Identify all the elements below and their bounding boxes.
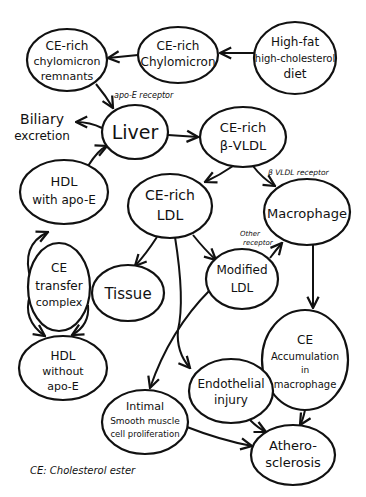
- svg-text:CE-rich: CE-rich: [157, 39, 200, 53]
- edge-label-apoe-receptor: apo-E receptor: [114, 91, 174, 100]
- node-modified-ldl: Modified LDL: [206, 249, 278, 309]
- svg-text:Accumulation: Accumulation: [271, 351, 339, 362]
- svg-text:CE-rich: CE-rich: [46, 39, 89, 53]
- svg-text:excretion: excretion: [14, 129, 70, 143]
- node-ce-transfer-complex: CE transfer complex: [28, 243, 90, 331]
- edge-ldl-to-endothelial: [175, 237, 190, 368]
- svg-text:HDL: HDL: [51, 349, 76, 363]
- svg-text:with apo-E: with apo-E: [32, 193, 96, 207]
- edge-label-vldl-receptor: β VLDL receptor: [268, 168, 330, 177]
- svg-text:high-cholesterol: high-cholesterol: [255, 53, 335, 64]
- node-atherosclerosis: Athero- sclerosis: [251, 425, 335, 485]
- node-endothelial-injury: Endothelial injury: [189, 359, 273, 423]
- svg-text:Chylomicron: Chylomicron: [141, 55, 216, 69]
- svg-text:cell proliferation: cell proliferation: [110, 429, 179, 439]
- svg-text:chylomicron: chylomicron: [33, 55, 100, 68]
- node-intimal-proliferation: Intimal Smooth muscle cell proliferation: [102, 390, 188, 454]
- svg-text:complex: complex: [36, 296, 83, 309]
- svg-text:Smooth muscle: Smooth muscle: [110, 416, 180, 426]
- svg-text:CE: CE: [297, 333, 313, 347]
- edge-liver-to-biliary: [76, 122, 102, 128]
- edge-label-other-receptor-2: receptor: [243, 239, 274, 247]
- node-beta-vldl: CE-rich β-VLDL: [200, 107, 286, 167]
- svg-text:without: without: [42, 365, 84, 378]
- svg-text:Biliary: Biliary: [20, 111, 64, 127]
- node-macrophage: Macrophage: [264, 179, 350, 245]
- edge-liver-to-vldl: [168, 135, 198, 137]
- edge-label-other-receptor-1: Other: [240, 230, 261, 238]
- svg-text:Endothelial: Endothelial: [197, 377, 264, 391]
- node-chylomicron: CE-rich Chylomicron: [138, 27, 218, 83]
- node-ce-accumulation: CE Accumulation in macrophage: [262, 310, 348, 410]
- edge-endothelial-to-athero: [250, 420, 266, 432]
- svg-text:injury: injury: [214, 393, 248, 407]
- svg-text:remnants: remnants: [41, 70, 94, 83]
- edge-ldl-to-modified: [193, 235, 216, 260]
- node-liver: Liver: [102, 105, 168, 159]
- lipid-metabolism-diagram: apo-E receptor β VLDL receptor Other rec…: [0, 0, 366, 497]
- svg-text:transfer: transfer: [35, 279, 82, 293]
- edge-vldl-to-ldl: [205, 166, 233, 182]
- node-biliary-excretion: Biliary excretion: [14, 111, 70, 143]
- svg-text:Tissue: Tissue: [103, 285, 151, 303]
- svg-text:LDL: LDL: [157, 207, 184, 223]
- edge-chylomicron-to-remnants: [108, 55, 138, 58]
- svg-text:Modified: Modified: [216, 263, 267, 277]
- node-chylomicron-remnants: CE-rich chylomicron remnants: [27, 29, 107, 91]
- edge-accumulation-to-athero: [300, 410, 305, 425]
- node-hdl-with-apoe: HDL with apo-E: [20, 160, 108, 224]
- svg-text:CE-rich: CE-rich: [145, 187, 195, 203]
- edge-hdl-apoe-to-liver: [88, 146, 107, 166]
- svg-text:LDL: LDL: [231, 281, 254, 295]
- svg-text:diet: diet: [283, 67, 306, 81]
- svg-text:Athero-: Athero-: [269, 438, 317, 453]
- svg-text:sclerosis: sclerosis: [265, 455, 321, 470]
- edge-remnants-to-liver: [96, 84, 113, 108]
- svg-text:apo-E: apo-E: [47, 380, 79, 393]
- svg-text:Macrophage: Macrophage: [267, 206, 347, 221]
- svg-text:Intimal: Intimal: [126, 400, 164, 413]
- node-tissue: Tissue: [92, 265, 164, 321]
- svg-text:High-fat: High-fat: [271, 35, 319, 49]
- svg-text:macrophage: macrophage: [274, 379, 337, 390]
- edge-ldl-to-tissue: [135, 237, 157, 266]
- node-hdl-without-apoe: HDL without apo-E: [19, 336, 107, 400]
- svg-text:Liver: Liver: [112, 121, 159, 143]
- node-ce-rich-ldl: CE-rich LDL: [128, 174, 212, 238]
- svg-text:in: in: [301, 365, 309, 375]
- footnote: CE: Cholesterol ester: [30, 465, 136, 476]
- svg-text:β-VLDL: β-VLDL: [220, 138, 267, 153]
- edge-intimal-to-athero: [187, 427, 252, 446]
- svg-text:HDL: HDL: [50, 174, 78, 189]
- svg-text:CE: CE: [51, 261, 67, 275]
- svg-text:CE-rich: CE-rich: [220, 120, 266, 135]
- node-high-fat-diet: High-fat high-cholesterol diet: [254, 22, 336, 94]
